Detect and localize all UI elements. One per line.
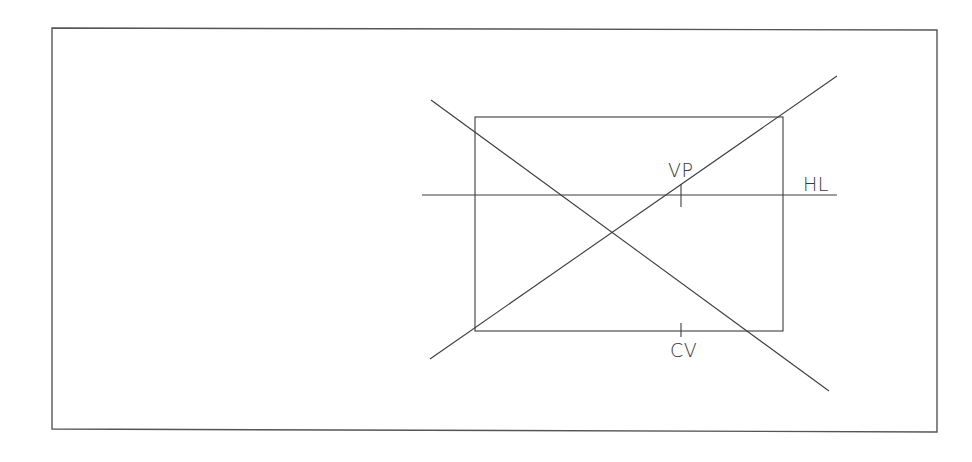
picture-rectangle <box>475 117 783 331</box>
diagonal-line-ascending <box>430 76 837 359</box>
vanishing-point-label: VP <box>668 159 693 181</box>
horizon-line-label: HL <box>803 173 829 195</box>
outer-frame <box>52 28 937 432</box>
perspective-diagram: VP HL CV <box>0 0 972 462</box>
diagonal-line-descending <box>431 100 829 391</box>
center-of-vision-label: CV <box>670 339 697 361</box>
